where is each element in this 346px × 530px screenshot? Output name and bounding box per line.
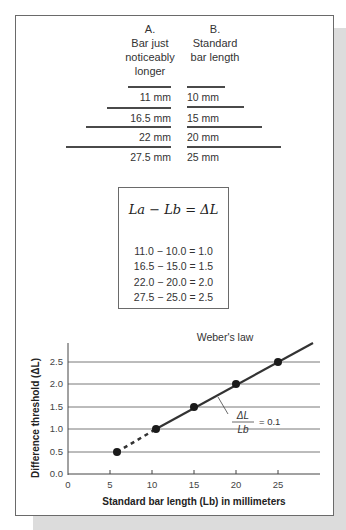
- svg-text:15: 15: [189, 479, 200, 490]
- annotation-value: = 0.1: [259, 416, 280, 427]
- annotation-denominator: Lb: [237, 424, 249, 435]
- svg-text:2.0: 2.0: [50, 378, 63, 389]
- svg-text:0.5: 0.5: [50, 446, 63, 457]
- svg-text:10: 10: [147, 479, 158, 490]
- y-tick-labels: 0.0 0.5 1.0 1.5 2.0 2.5: [50, 356, 63, 479]
- x-tick-labels: 0 5 10 15 20 25: [65, 479, 283, 490]
- svg-text:1.0: 1.0: [50, 423, 63, 434]
- svg-text:20: 20: [231, 479, 242, 490]
- x-axis-label: Standard bar length (Lb) in millimeters: [102, 496, 286, 507]
- dashed-extrapolation-line: [117, 429, 156, 452]
- svg-text:0.0: 0.0: [50, 468, 63, 479]
- svg-text:5: 5: [107, 479, 112, 490]
- svg-text:1.5: 1.5: [50, 401, 63, 412]
- annotation-leader: [218, 397, 228, 414]
- svg-text:2.5: 2.5: [50, 356, 63, 367]
- weber-law-chart: Weber's law 0.0 0.5 1.0 1.5 2.0 2.5 0 5 …: [0, 0, 346, 530]
- x-ticks: [110, 470, 278, 474]
- annotation-numerator: ΔL: [236, 410, 249, 421]
- svg-text:25: 25: [273, 479, 284, 490]
- chart-title: Weber's law: [197, 331, 254, 343]
- svg-text:0: 0: [65, 479, 70, 490]
- y-axis-label: Difference threshold (ΔL): [30, 358, 41, 478]
